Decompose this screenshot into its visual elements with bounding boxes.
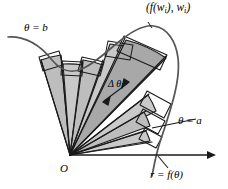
polar-axis <box>70 151 216 159</box>
sector-group <box>41 40 166 155</box>
origin-label: O <box>60 163 68 174</box>
polar-area-figure: (f(wi), wi) θ = b θ = a r = f(θ) Δ θi O <box>0 0 228 189</box>
theta-a-label: θ = a <box>178 115 202 126</box>
sample-point-label: (f(wi), wi) <box>146 2 190 16</box>
theta-b-label: θ = b <box>24 22 48 33</box>
polar-curve-label: r = f(θ) <box>150 169 183 180</box>
delta-theta-label: Δ θi <box>108 79 123 91</box>
polar-axis-arrowhead <box>207 151 216 159</box>
leader-line-polar-curve <box>158 156 168 168</box>
